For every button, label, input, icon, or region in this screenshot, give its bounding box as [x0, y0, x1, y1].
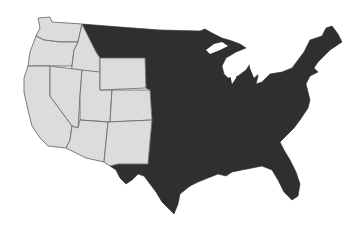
state-colorado — [110, 90, 152, 122]
state-new-mexico — [104, 120, 152, 166]
state-wyoming — [100, 58, 146, 90]
us-map-svg — [0, 0, 363, 225]
state-washington — [36, 17, 82, 42]
us-map: Contiguous United States — [0, 0, 363, 225]
state-arizona — [66, 120, 108, 162]
